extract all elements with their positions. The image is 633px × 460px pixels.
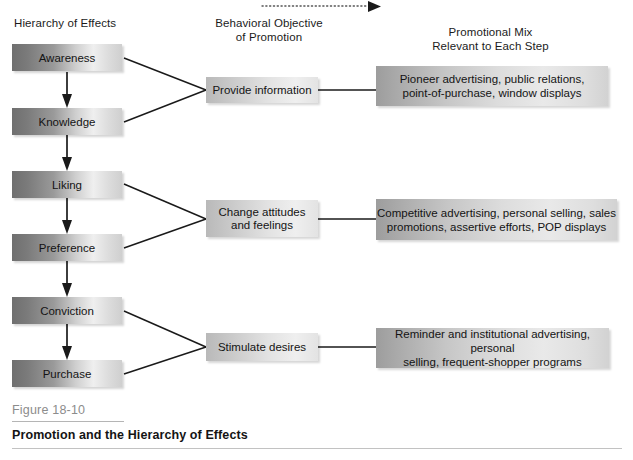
hierarchy-step-label: Preference [12,242,122,254]
behavioral-objective-label: Provide information [206,84,318,97]
behavioral-objective-stimulate-desires[interactable]: Stimulate desires [206,333,318,361]
promotional-mix-reminder[interactable]: Reminder and institutional advertising, … [376,328,609,368]
column-heading-behavioral-objective: Behavioral Objective of Promotion [209,17,329,44]
hierarchy-step-liking[interactable]: Liking [12,171,122,198]
promotional-mix-label: Competitive advertising, personal sellin… [376,206,617,234]
hierarchy-step-label: Liking [12,179,122,191]
figure-number-rule [12,421,124,422]
hierarchy-step-label: Purchase [12,368,122,380]
hierarchy-step-purchase[interactable]: Purchase [12,360,122,387]
figure-bottom-rule [12,448,622,449]
hierarchy-step-preference[interactable]: Preference [12,234,122,261]
behavioral-objective-label: Change attitudes and feelings [206,206,318,232]
behavioral-objective-provide-information[interactable]: Provide information [206,77,318,103]
column-heading-hierarchy: Hierarchy of Effects [14,17,116,31]
promotional-mix-pioneer[interactable]: Pioneer advertising, public relations, p… [376,66,608,106]
figure-number: Figure 18-10 [12,403,85,417]
hierarchy-step-label: Conviction [12,305,122,317]
column-heading-promotional-mix: Promotional Mix Relevant to Each Step [378,26,603,53]
behavioral-objective-label: Stimulate desires [206,341,318,354]
hierarchy-step-knowledge[interactable]: Knowledge [12,108,122,135]
figure-canvas: Hierarchy of Effects Behavioral Objectiv… [0,0,633,460]
hierarchy-step-label: Awareness [12,52,122,64]
promotional-mix-competitive[interactable]: Competitive advertising, personal sellin… [376,199,617,240]
behavioral-objective-change-attitudes[interactable]: Change attitudes and feelings [206,200,318,237]
hierarchy-step-conviction[interactable]: Conviction [12,297,122,324]
hierarchy-step-label: Knowledge [12,116,122,128]
dotted-progress-arrow [262,1,381,12]
promotional-mix-label: Reminder and institutional advertising, … [376,327,609,369]
mix-connectors [318,90,376,347]
promotional-mix-label: Pioneer advertising, public relations, p… [376,72,608,100]
hierarchy-step-awareness[interactable]: Awareness [12,44,122,71]
v-connectors [124,58,206,374]
figure-title: Promotion and the Hierarchy of Effects [12,428,248,442]
